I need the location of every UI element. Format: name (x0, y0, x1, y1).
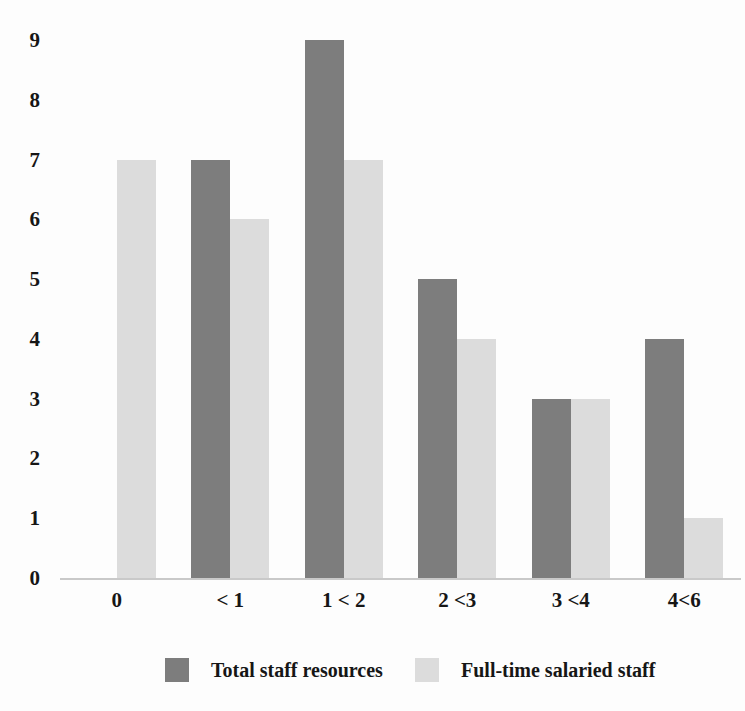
bar-group (60, 40, 174, 578)
legend-swatch-icon (415, 658, 439, 682)
x-tick-label: < 1 (216, 588, 244, 613)
bar (305, 40, 344, 578)
bar (532, 399, 571, 578)
y-tick-label: 6 (30, 207, 41, 232)
legend-item[interactable]: Full-time salaried staff (415, 655, 655, 685)
bar (230, 219, 269, 578)
y-axis: 0123456789 (0, 0, 56, 711)
x-tick-label: 1 < 2 (322, 588, 365, 613)
bar-group (628, 40, 742, 578)
bar-group (401, 40, 515, 578)
y-tick-label: 8 (30, 87, 41, 112)
legend-label: Full-time salaried staff (461, 659, 655, 682)
bar (117, 160, 156, 578)
x-tick-label: 0 (112, 588, 123, 613)
x-tick-label: 4<6 (668, 588, 701, 613)
bar-chart: 0123456789 0< 11 < 22 <33 <44<6 Total st… (0, 0, 745, 711)
bar-group (174, 40, 288, 578)
y-tick-label: 2 (30, 446, 41, 471)
x-axis-labels: 0< 11 < 22 <33 <44<6 (60, 588, 741, 622)
bar-group (287, 40, 401, 578)
legend-swatch-icon (165, 658, 189, 682)
y-tick-label: 5 (30, 267, 41, 292)
legend-item[interactable]: Total staff resources (165, 655, 383, 685)
bar (344, 160, 383, 578)
bar (645, 339, 684, 578)
bar (684, 518, 723, 578)
bar (571, 399, 610, 578)
bar-group (514, 40, 628, 578)
y-tick-label: 4 (30, 326, 41, 351)
y-tick-label: 3 (30, 386, 41, 411)
x-tick-label: 2 <3 (438, 588, 476, 613)
legend-label: Total staff resources (211, 659, 383, 682)
plot-area (60, 40, 740, 578)
bar (191, 160, 230, 578)
bar (418, 279, 457, 578)
x-tick-label: 3 <4 (552, 588, 590, 613)
bar (457, 339, 496, 578)
chart-legend: Total staff resourcesFull-time salaried … (0, 655, 745, 689)
y-tick-label: 1 (30, 506, 41, 531)
y-tick-label: 0 (30, 566, 41, 591)
y-tick-label: 9 (30, 28, 41, 53)
x-axis-baseline (60, 578, 741, 580)
y-tick-label: 7 (30, 147, 41, 172)
